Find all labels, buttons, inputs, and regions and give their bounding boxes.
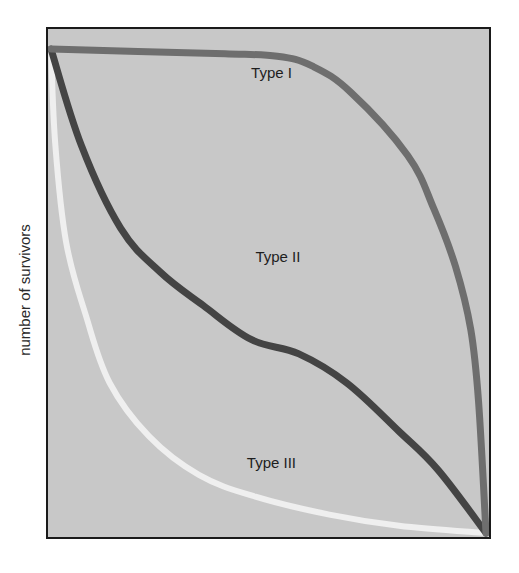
label-type-iii: Type III — [247, 454, 296, 471]
label-type-ii: Type II — [255, 248, 300, 265]
y-axis-label: number of survivors — [16, 224, 33, 356]
survivorship-chart: Type IType IIType III number of survivor… — [0, 0, 519, 573]
label-type-i: Type I — [251, 64, 292, 81]
